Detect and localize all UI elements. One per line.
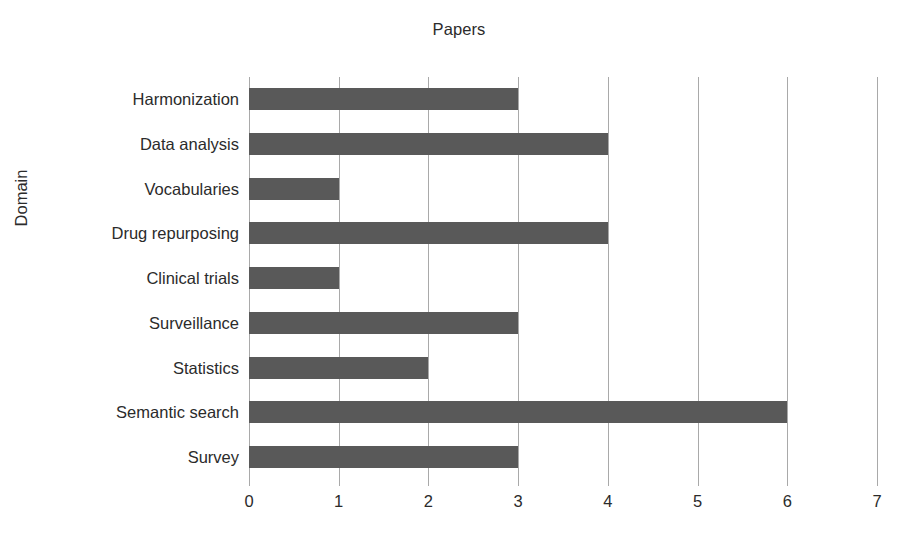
bar-row bbox=[249, 435, 877, 480]
x-tick-mark-2 bbox=[428, 480, 429, 486]
bar-row bbox=[249, 211, 877, 256]
bar-row bbox=[249, 301, 877, 346]
bar-surveillance[interactable] bbox=[249, 312, 518, 334]
y-tick-label-drug-repurposing: Drug repurposing bbox=[9, 222, 239, 244]
bar-survey[interactable] bbox=[249, 446, 518, 468]
x-tick-mark-6 bbox=[787, 480, 788, 486]
x-tick-label-1: 1 bbox=[319, 492, 359, 511]
bar-data-analysis[interactable] bbox=[249, 133, 608, 155]
bar-row bbox=[249, 77, 877, 122]
bar-semantic-search[interactable] bbox=[249, 401, 787, 423]
y-tick-label-harmonization: Harmonization bbox=[9, 88, 239, 110]
bar-row bbox=[249, 390, 877, 435]
x-tick-label-6: 6 bbox=[767, 492, 807, 511]
x-tick-label-5: 5 bbox=[678, 492, 718, 511]
y-axis-tick-labels: HarmonizationData analysisVocabulariesDr… bbox=[0, 77, 239, 480]
x-tick-label-0: 0 bbox=[229, 492, 269, 511]
bar-row bbox=[249, 167, 877, 212]
bar-vocabularies[interactable] bbox=[249, 178, 339, 200]
y-tick-label-surveillance: Surveillance bbox=[9, 312, 239, 334]
y-tick-label-clinical-trials: Clinical trials bbox=[9, 267, 239, 289]
bar-row bbox=[249, 122, 877, 167]
bar-chart-figure: Papers Domain HarmonizationData analysis… bbox=[0, 0, 918, 545]
x-axis-tick-labels: 01234567 bbox=[249, 492, 877, 518]
x-tick-label-7: 7 bbox=[857, 492, 897, 511]
bar-row bbox=[249, 346, 877, 391]
x-tick-mark-7 bbox=[877, 480, 878, 486]
bar-statistics[interactable] bbox=[249, 357, 428, 379]
bar-clinical-trials[interactable] bbox=[249, 267, 339, 289]
x-tick-mark-1 bbox=[339, 480, 340, 486]
bar-row bbox=[249, 256, 877, 301]
x-tick-mark-0 bbox=[249, 480, 250, 486]
bar-drug-repurposing[interactable] bbox=[249, 222, 608, 244]
x-tick-mark-3 bbox=[518, 480, 519, 486]
plot-area bbox=[249, 77, 877, 480]
x-tick-label-3: 3 bbox=[498, 492, 538, 511]
chart-title: Papers bbox=[0, 20, 918, 39]
y-tick-label-statistics: Statistics bbox=[9, 357, 239, 379]
gridline-7 bbox=[877, 77, 878, 480]
y-tick-label-semantic-search: Semantic search bbox=[9, 401, 239, 423]
y-tick-label-data-analysis: Data analysis bbox=[9, 133, 239, 155]
x-tick-mark-5 bbox=[698, 480, 699, 486]
x-tick-label-2: 2 bbox=[408, 492, 448, 511]
x-tick-mark-4 bbox=[608, 480, 609, 486]
x-tick-label-4: 4 bbox=[588, 492, 628, 511]
bar-harmonization[interactable] bbox=[249, 88, 518, 110]
y-tick-label-survey: Survey bbox=[9, 446, 239, 468]
y-tick-label-vocabularies: Vocabularies bbox=[9, 178, 239, 200]
